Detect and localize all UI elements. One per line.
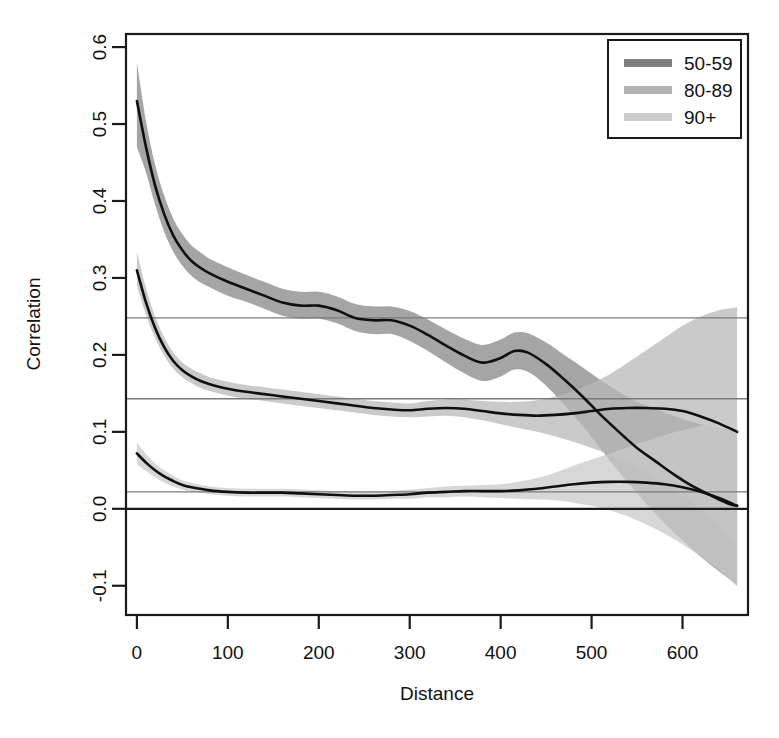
- y-tick-label: 0.3: [90, 265, 111, 291]
- x-tick-label: 300: [394, 642, 426, 663]
- legend-label-80-89: 80-89: [684, 80, 733, 101]
- x-tick-label: 0: [132, 642, 143, 663]
- legend-label-50-59: 50-59: [684, 53, 733, 74]
- x-tick-label: 600: [667, 642, 699, 663]
- y-axis-title: Correlation: [23, 278, 44, 371]
- correlation-distance-chart: 0100200300400500600 -0.10.00.10.20.30.40…: [0, 0, 779, 738]
- y-tick-label: 0.4: [90, 187, 111, 214]
- y-tick-label: -0.1: [90, 569, 111, 602]
- y-tick-label: 0.0: [90, 496, 111, 522]
- x-axis-title: Distance: [400, 683, 474, 704]
- x-tick-label: 500: [576, 642, 608, 663]
- y-tick-label: 0.1: [90, 419, 111, 445]
- y-tick-label: 0.5: [90, 111, 111, 137]
- legend-label-90plus: 90+: [684, 107, 716, 128]
- x-tick-label: 200: [303, 642, 335, 663]
- x-tick-label: 100: [212, 642, 244, 663]
- y-tick-label: 0.2: [90, 342, 111, 368]
- x-tick-label: 400: [485, 642, 517, 663]
- legend: 50-59 80-89 90+: [608, 40, 741, 138]
- y-tick-label: 0.6: [90, 34, 111, 60]
